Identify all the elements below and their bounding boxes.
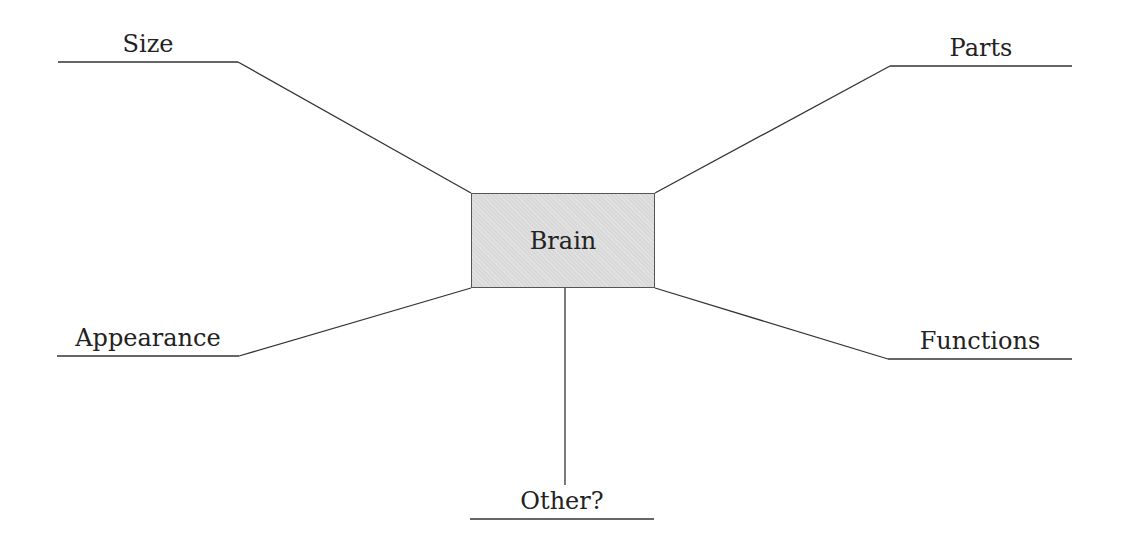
- branch-label-other: Other?: [470, 487, 654, 515]
- parts-connector: [655, 66, 890, 193]
- center-node-label: Brain: [530, 227, 597, 255]
- functions-connector: [655, 288, 888, 359]
- center-node-brain: Brain: [471, 193, 655, 288]
- branch-label-parts: Parts: [890, 34, 1072, 62]
- size-connector: [238, 62, 471, 193]
- branch-label-appearance: Appearance: [57, 324, 239, 352]
- branch-label-functions: Functions: [888, 327, 1072, 355]
- appearance-connector: [239, 288, 471, 356]
- branch-label-size: Size: [58, 30, 238, 58]
